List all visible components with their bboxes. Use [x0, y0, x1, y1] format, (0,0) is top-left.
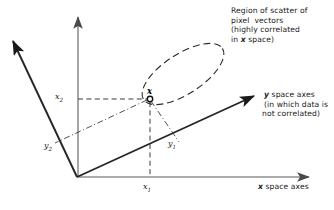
pixel-vector-point-marker: [147, 96, 152, 101]
annotation-y-space-axes-line2: (in which data is: [264, 100, 328, 109]
axis-label-y1: y1: [168, 139, 176, 150]
figure-canvas: x2 y2 y1 x1 x Region of scatter of pixel…: [0, 0, 334, 210]
scatter-region-ellipse: [133, 32, 234, 117]
axis-label-x2: x2: [55, 92, 63, 103]
annotation-scatter-region: Region of scatter of pixel vectors (high…: [231, 6, 307, 44]
y1-axis-line: [77, 96, 254, 177]
annotation-scatter-region-line1: Region of scatter of: [231, 6, 307, 15]
annotation-y-space-axes-line3: not correlated): [262, 109, 328, 119]
y2-projection-line: [55, 100, 147, 143]
annotation-scatter-region-line4: in x space): [231, 35, 274, 44]
annotation-x-space-axes: x space axes: [258, 182, 309, 192]
annotation-scatter-region-line3: (highly correlated: [231, 25, 300, 34]
annotation-y-space-axes: y space axes (in which data is not corre…: [264, 90, 328, 119]
annotation-scatter-region-line2: pixel vectors: [231, 16, 283, 25]
pixel-vector-point-label: x: [147, 86, 152, 96]
axis-label-y2: y2: [44, 141, 52, 152]
axis-label-x1: x1: [143, 182, 151, 193]
y2-axis-line: [13, 41, 77, 177]
annotation-y-space-axes-title: y space axes: [264, 90, 315, 99]
